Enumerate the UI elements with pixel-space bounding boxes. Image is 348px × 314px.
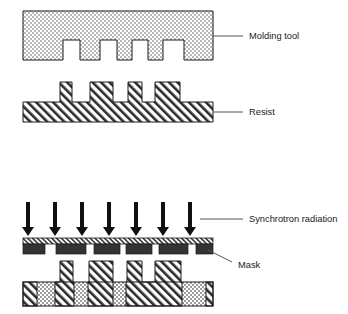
mask-absorber <box>196 244 213 254</box>
resist-segment <box>23 282 37 306</box>
mask-membrane <box>23 238 213 244</box>
exposed-region <box>37 282 55 306</box>
synchrotron-radiation-label: Synchrotron radiation <box>249 214 337 224</box>
mask-label: Mask <box>238 260 261 270</box>
resist-segment <box>206 282 213 306</box>
exposed-region <box>74 282 88 306</box>
molding-tool-label: Molding tool <box>249 31 299 41</box>
exposed-region <box>113 282 126 306</box>
exposed-region <box>182 282 206 306</box>
mask-absorber <box>159 244 188 254</box>
liga-process-diagram: Molding tool Resist Synchrotron radiatio… <box>0 0 348 314</box>
mask-absorber <box>126 244 152 254</box>
resist-label: Resist <box>249 107 275 117</box>
mask-absorber <box>94 244 120 254</box>
resist-segment-with-post <box>88 261 113 306</box>
mask-absorber <box>23 244 45 254</box>
mask-absorber <box>56 244 86 254</box>
molding-tool-body <box>23 11 213 60</box>
